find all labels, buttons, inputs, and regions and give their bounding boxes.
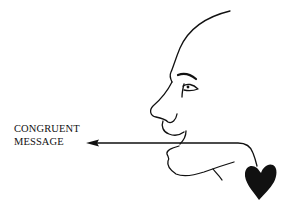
eyebrow (178, 74, 196, 79)
eye (183, 84, 198, 90)
head-outline (170, 11, 230, 82)
mouth-outline (162, 121, 184, 135)
nose-outline (151, 82, 177, 123)
face-illustration (0, 0, 290, 211)
chin-outline (167, 146, 234, 176)
neck-outline (213, 169, 222, 180)
diagram-canvas: CONGRUENT MESSAGE (0, 0, 290, 211)
pupil (187, 86, 190, 89)
heart-icon (245, 164, 277, 200)
